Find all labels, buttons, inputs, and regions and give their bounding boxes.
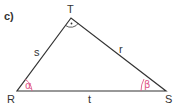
side-s-label: s [34, 46, 40, 58]
alpha-label: α [25, 80, 32, 91]
vertex-r-label: R [7, 93, 15, 105]
vertex-s-label: S [165, 93, 172, 105]
side-t-label: t [88, 93, 91, 105]
right-angle-dot [71, 23, 73, 25]
side-r-label: r [119, 43, 123, 55]
triangle-diagram: c) α β T R S s r t [0, 0, 174, 107]
part-label: c) [4, 10, 14, 22]
beta-label: β [144, 79, 150, 90]
triangle-figure: c) α β T R S s r t [0, 0, 174, 107]
vertex-t-label: T [67, 3, 74, 15]
